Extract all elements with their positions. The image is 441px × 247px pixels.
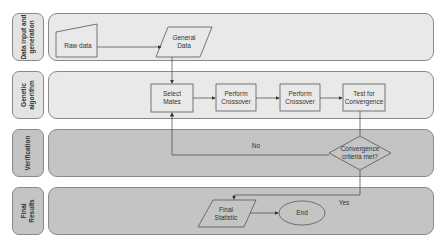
select-mates-node: Select Mates: [151, 90, 193, 106]
end-node: End: [286, 209, 318, 217]
raw-data-shape: [56, 24, 97, 57]
crossover-1-node: Perform Crossover: [216, 90, 256, 106]
final-statistic-node: Final Statistic: [204, 206, 248, 222]
general-data-node: General Data: [162, 34, 206, 50]
test-convergence-node: Test for Convergence: [341, 90, 387, 106]
raw-data-node: Raw data: [60, 42, 96, 50]
crossover-2-node: Perform Crossover: [280, 90, 320, 106]
edge-label-no: No: [246, 142, 266, 150]
edge-label-yes: Yes: [334, 199, 354, 207]
decision-node: Convergence criteria met?: [333, 145, 387, 161]
